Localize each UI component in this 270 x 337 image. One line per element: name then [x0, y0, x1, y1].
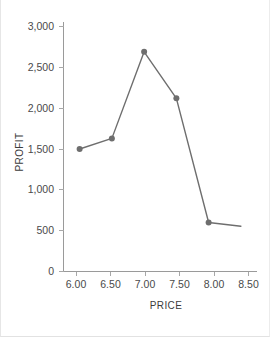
y-tick-label-2000: 2,000	[28, 102, 54, 114]
profit-line	[80, 52, 241, 226]
y-tick-label-1500: 1,500	[28, 143, 54, 155]
y-tick-label-0: 0	[48, 265, 54, 277]
y-tick-label-1000: 1,000	[28, 183, 54, 195]
data-point	[77, 146, 83, 152]
y-tick-label-3000: 3,000	[28, 20, 54, 32]
x-axis-title: PRICE	[150, 300, 183, 311]
profit-data-markers	[77, 49, 212, 226]
x-tick-label-700: 7.00	[135, 278, 156, 290]
y-tick-label-2500: 2,500	[28, 61, 54, 73]
data-point	[173, 95, 179, 101]
data-point	[206, 220, 212, 226]
x-tick-marks	[76, 272, 249, 277]
x-tick-label-600: 6.00	[66, 278, 87, 290]
y-tick-label-500: 500	[36, 224, 54, 236]
x-tick-label-800: 8.00	[204, 278, 225, 290]
chart-card: 3,000 2,500 2,000 1,500 1,000 500 0 6.00…	[0, 0, 270, 337]
x-tick-label-650: 6.50	[100, 278, 121, 290]
data-point	[141, 49, 147, 55]
y-axis-title: PROFIT	[14, 132, 25, 171]
line-chart: 3,000 2,500 2,000 1,500 1,000 500 0 6.00…	[1, 0, 270, 337]
x-tick-label-850: 8.50	[238, 278, 259, 290]
data-point	[109, 135, 115, 141]
x-tick-label-750: 7.50	[169, 278, 190, 290]
y-tick-marks	[59, 27, 64, 272]
